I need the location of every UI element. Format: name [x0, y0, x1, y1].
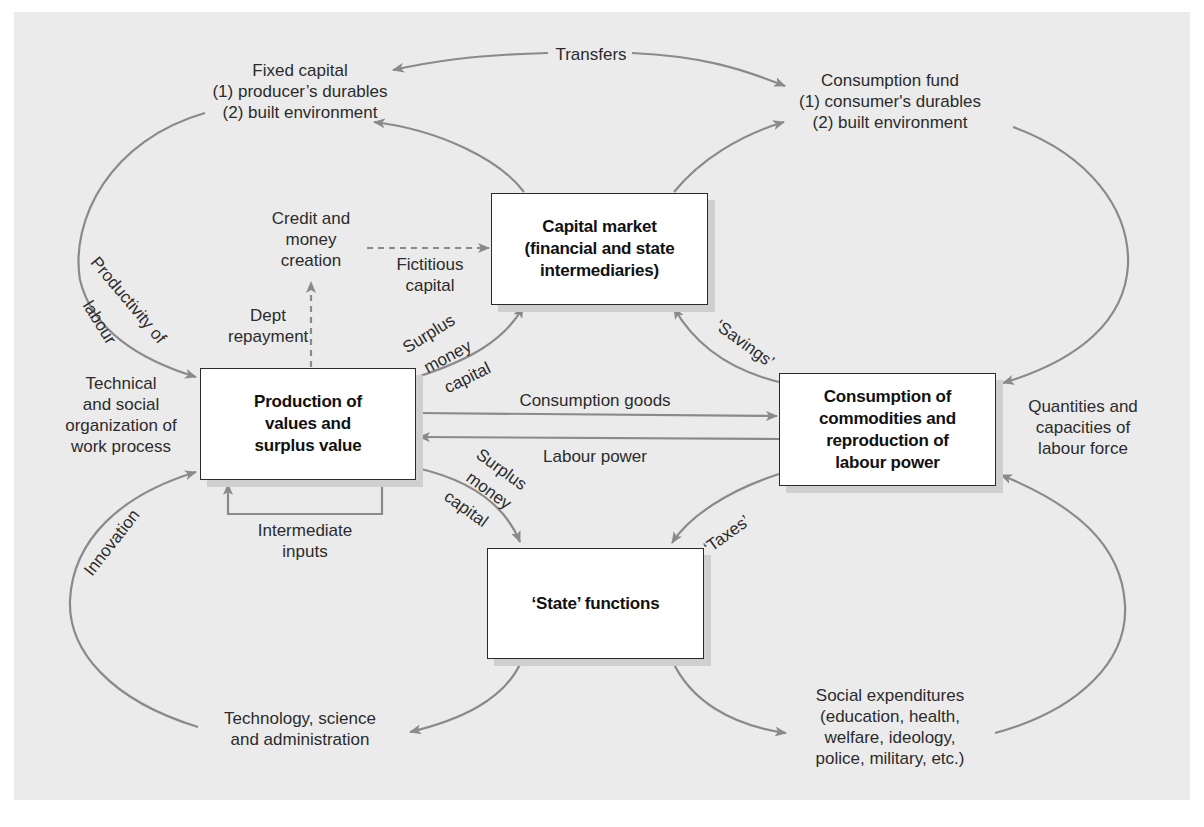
social-expenditures-label: Social expenditures (education, health, …	[790, 685, 990, 769]
transfers-label: Transfers	[550, 44, 632, 65]
state-functions-box: ‘State’ functions	[487, 548, 704, 659]
transfers-arrow-right	[632, 53, 785, 86]
consumption-goods-label: Consumption goods	[495, 390, 695, 411]
quantities-capacities-label: Quantities and capacities of labour forc…	[1008, 396, 1158, 459]
state-to-technology-arrow	[410, 660, 522, 732]
consumption-box-label: Consumption of commodities and reproduct…	[819, 386, 956, 474]
credit-money-creation-label: Credit and money creation	[255, 208, 367, 271]
labour-power-arrow	[419, 437, 779, 439]
state-to-social-arrow	[672, 660, 786, 733]
production-box-label: Production of values and surplus value	[254, 391, 362, 457]
consumption-fund-loop-arrow	[1003, 127, 1128, 383]
intermediate-inputs-loop	[228, 481, 382, 514]
labour-power-label: Labour power	[515, 446, 675, 467]
consumption-box: Consumption of commodities and reproduct…	[779, 373, 996, 486]
social-loop-arrow	[995, 475, 1125, 733]
intermediate-inputs-label: Intermediate inputs	[240, 520, 370, 562]
state-functions-box-label: ‘State’ functions	[532, 593, 660, 615]
capital-to-fixed-arrow	[374, 122, 524, 192]
transfers-arrow-left	[393, 53, 548, 70]
capital-market-box-label: Capital market (financial and state inte…	[525, 216, 675, 282]
capital-to-consumption-fund-arrow	[674, 122, 784, 192]
technical-organization-label: Technical and social organization of wor…	[45, 373, 197, 457]
dept-repayment-label: Dept repayment	[228, 305, 308, 347]
capital-market-box: Capital market (financial and state inte…	[491, 193, 708, 305]
technology-science-label: Technology, science and administration	[200, 708, 400, 750]
fictitious-capital-label: Fictitious capital	[375, 254, 485, 296]
fixed-capital-label: Fixed capital (1) producer’s durables (2…	[200, 60, 400, 123]
consumption-goods-arrow	[417, 413, 777, 416]
production-box: Production of values and surplus value	[200, 368, 416, 480]
consumption-fund-label: Consumption fund (1) consumer's durables…	[785, 70, 995, 133]
